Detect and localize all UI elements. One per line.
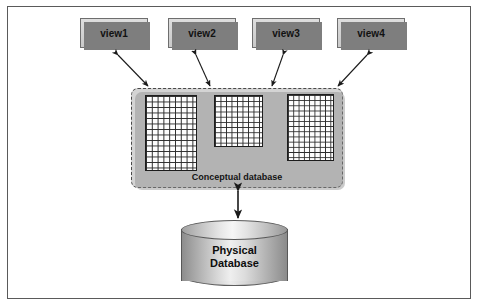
view-box-label: view1 bbox=[100, 28, 128, 39]
grid-cells bbox=[146, 96, 196, 170]
physical-database-label-line1: Physical bbox=[181, 244, 288, 257]
physical-database-label: Physical Database bbox=[181, 244, 288, 269]
cylinder-top-ellipse bbox=[181, 220, 288, 240]
view-box-view4[interactable]: view4 bbox=[337, 18, 405, 48]
conceptual-grid-2 bbox=[214, 95, 263, 147]
grid-cells bbox=[215, 96, 262, 146]
grid-cells bbox=[288, 95, 333, 160]
conceptual-database-panel[interactable]: Conceptual database bbox=[131, 88, 343, 188]
physical-database-label-line2: Database bbox=[181, 257, 288, 270]
diagram-canvas: view1 view2 view3 view4 Conceptual datab… bbox=[0, 0, 479, 307]
conceptual-database-label: Conceptual database bbox=[132, 172, 342, 182]
physical-database-cylinder[interactable]: Physical Database bbox=[181, 220, 288, 289]
view-box-view2[interactable]: view2 bbox=[168, 18, 236, 48]
view-box-label: view2 bbox=[188, 28, 216, 39]
view-box-view1[interactable]: view1 bbox=[80, 18, 148, 48]
conceptual-grid-3 bbox=[287, 94, 334, 161]
view-box-label: view3 bbox=[272, 28, 300, 39]
view-box-view3[interactable]: view3 bbox=[252, 18, 320, 48]
view-box-label: view4 bbox=[357, 28, 385, 39]
conceptual-grid-1 bbox=[145, 95, 197, 171]
